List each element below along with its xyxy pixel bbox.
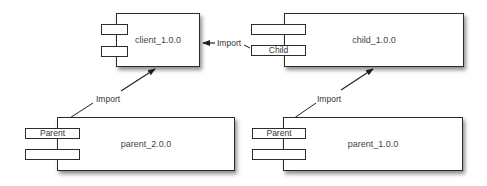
port-client-2[interactable] (101, 46, 128, 57)
port-child-1[interactable] (251, 24, 306, 35)
port-parent2-2[interactable] (25, 149, 80, 160)
component-client[interactable]: client_1.0.0 (116, 13, 200, 67)
component-parent-1[interactable]: parent_1.0.0 (283, 117, 463, 171)
edge-label-child-client: Import (217, 38, 241, 48)
port-child-child[interactable]: Child (251, 45, 306, 56)
edge-label-parent1-child: Import (317, 94, 341, 104)
component-label: parent_1.0.0 (284, 139, 462, 149)
port-parent1-2[interactable] (252, 149, 306, 160)
component-child[interactable]: child_1.0.0 (284, 13, 464, 67)
edge-label-parent2-client: Import (96, 94, 120, 104)
component-label: child_1.0.0 (285, 35, 463, 45)
port-parent1-parent[interactable]: Parent (252, 128, 306, 139)
component-parent-2[interactable]: parent_2.0.0 (57, 117, 235, 171)
component-label: client_1.0.0 (117, 35, 199, 45)
diagram-canvas: client_1.0.0 child_1.0.0 Child parent_2.… (0, 0, 487, 186)
port-client-1[interactable] (101, 24, 128, 35)
port-parent2-parent[interactable]: Parent (25, 128, 80, 139)
component-label: parent_2.0.0 (58, 139, 234, 149)
